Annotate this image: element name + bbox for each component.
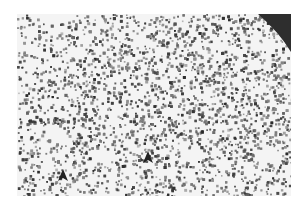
micrograph-image [17, 14, 291, 196]
tissue-canvas [17, 14, 291, 196]
